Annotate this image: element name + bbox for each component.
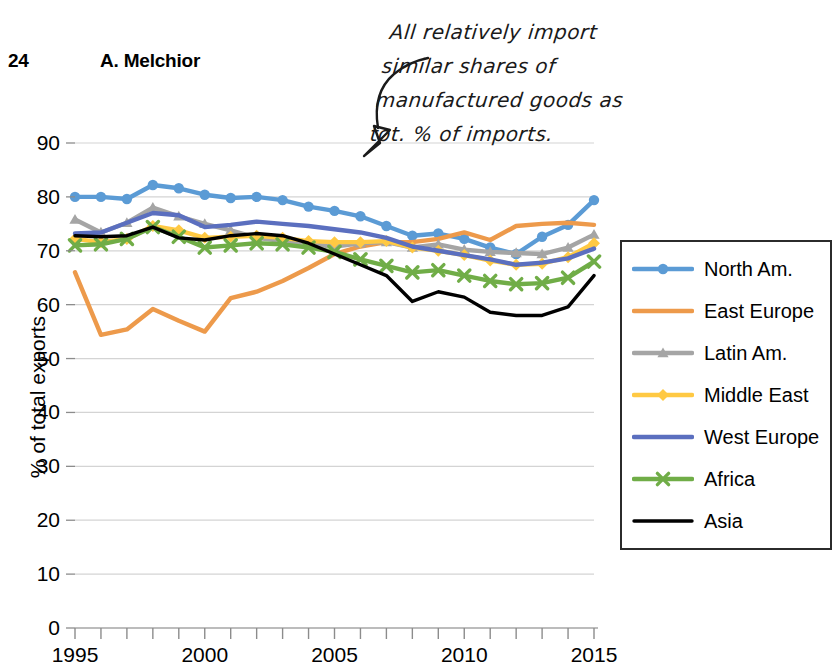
legend-label: Latin Am. xyxy=(704,343,787,363)
legend-label: Asia xyxy=(704,511,743,531)
legend-swatch-diamond-icon xyxy=(632,385,694,405)
legend-swatch-triangle-icon xyxy=(632,343,694,363)
legend-item-latin-am[interactable]: Latin Am. xyxy=(622,332,830,374)
legend-label: Middle East xyxy=(704,385,809,405)
legend-swatch-none-icon xyxy=(632,301,694,321)
chart-legend: North Am.East EuropeLatin Am.Middle East… xyxy=(620,240,832,550)
legend-label: Africa xyxy=(704,469,755,489)
legend-item-north-am[interactable]: North Am. xyxy=(622,248,830,290)
legend-swatch-circle-icon xyxy=(632,259,694,279)
legend-item-africa[interactable]: Africa xyxy=(622,458,830,500)
legend-label: North Am. xyxy=(704,259,793,279)
legend-item-middle-east[interactable]: Middle East xyxy=(622,374,830,416)
legend-swatch-none-icon xyxy=(632,427,694,447)
legend-item-asia[interactable]: Asia xyxy=(622,500,830,542)
x-axis xyxy=(75,628,598,639)
legend-swatch-cross-icon xyxy=(632,469,694,489)
legend-swatch-none-icon xyxy=(632,511,694,531)
legend-item-east-europe[interactable]: East Europe xyxy=(622,290,830,332)
legend-label: West Europe xyxy=(704,427,819,447)
legend-label: East Europe xyxy=(704,301,814,321)
legend-item-west-europe[interactable]: West Europe xyxy=(622,416,830,458)
